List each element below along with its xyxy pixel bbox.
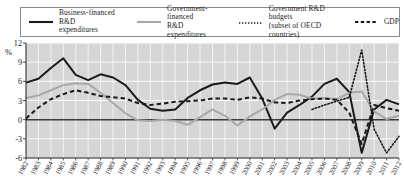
legend-item-gdp: GDP [353, 8, 399, 36]
legend-item-government-budgets: Government R&D budgets (subset of OECD c… [238, 8, 337, 36]
legend-swatch-dotted-icon [238, 16, 264, 28]
x-tick-label: 1998 [215, 160, 229, 177]
x-tick-label: 2000 [240, 160, 254, 177]
x-tick-label: 2001 [253, 160, 267, 177]
x-tick-label: 1990 [116, 160, 130, 177]
x-tick-label: 2006 [315, 160, 329, 177]
x-tick-label: 1995 [178, 160, 192, 177]
x-tick-label: 1988 [91, 160, 105, 177]
svg-text:12: 12 [14, 39, 22, 48]
svg-text:-6: -6 [15, 154, 22, 163]
chart-legend: Business-financed R&D expenditures Gover… [20, 7, 400, 37]
x-tick-label: 2005 [302, 160, 316, 177]
x-tick-label: 2003 [278, 160, 292, 177]
x-tick-label: 1999 [228, 160, 242, 177]
legend-item-business-financed: Business-financed R&D expenditures [28, 8, 118, 36]
x-axis-ticks: 1982198319841985198619871988198919901991… [17, 158, 404, 176]
svg-text:3: 3 [18, 97, 22, 106]
legend-label-government-budgets: Government R&D budgets (subset of OECD c… [269, 5, 337, 39]
x-tick-label: 2008 [340, 160, 354, 177]
svg-text:-3: -3 [15, 135, 22, 144]
legend-swatch-solid-grey-icon [136, 16, 162, 28]
x-tick-label: 2002 [265, 160, 279, 177]
x-tick-label: 2004 [290, 160, 304, 177]
x-tick-label: 1984 [41, 160, 55, 177]
plot-area-wrapper: % 129630-3-6 198219831984198519861987198… [0, 37, 404, 192]
x-tick-label: 1989 [104, 160, 118, 177]
legend-swatch-dashed-icon [353, 16, 379, 28]
x-tick-label: 2009 [352, 160, 366, 177]
legend-swatch-solid-black-icon [28, 16, 54, 28]
x-tick-label: 1991 [128, 160, 142, 177]
x-tick-label: 1985 [54, 160, 68, 177]
x-tick-label: 1983 [29, 160, 43, 177]
svg-text:0: 0 [18, 116, 22, 125]
svg-text:9: 9 [18, 58, 22, 67]
x-tick-label: 2011 [377, 160, 391, 176]
x-tick-label: 1993 [153, 160, 167, 177]
chart-figure: Business-financed R&D expenditures Gover… [0, 0, 404, 192]
line-chart-svg: 129630-3-6 19821983198419851986198719881… [0, 37, 404, 192]
legend-label-government-financed: Government-financed R&D expenditures [167, 5, 220, 39]
x-tick-label: 1986 [66, 160, 80, 177]
x-tick-label: 2010 [365, 160, 379, 177]
x-tick-label: 2007 [327, 160, 341, 177]
legend-label-business-financed: Business-financed R&D expenditures [59, 9, 118, 35]
legend-item-government-financed: Government-financed R&D expenditures [136, 8, 220, 36]
x-tick-label: 2012 [390, 160, 404, 177]
legend-label-gdp: GDP [384, 18, 399, 27]
svg-text:6: 6 [18, 77, 22, 86]
y-axis-ticks: 129630-3-6 [14, 39, 26, 163]
x-tick-label: 1992 [141, 160, 155, 177]
x-tick-label: 1997 [203, 160, 217, 177]
x-tick-label: 1996 [191, 160, 205, 177]
x-tick-label: 1987 [79, 160, 93, 177]
x-tick-label: 1994 [166, 160, 180, 177]
